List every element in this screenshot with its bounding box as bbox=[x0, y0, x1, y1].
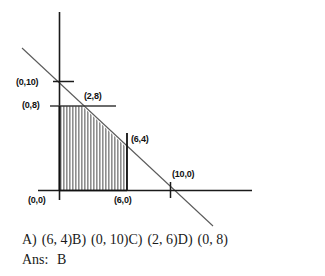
answer-option-b[interactable]: B) (0, 10) bbox=[72, 232, 128, 248]
answer-key-d: D) bbox=[178, 232, 193, 248]
coordinate-plane-svg bbox=[0, 0, 325, 228]
answer-option-c[interactable]: C) (2, 6) bbox=[128, 232, 177, 248]
answer-label: Ans: bbox=[22, 252, 48, 267]
answer-value: B bbox=[57, 252, 66, 267]
label-0-10: (0,10) bbox=[16, 78, 38, 87]
label-0-0: (0,0) bbox=[28, 196, 46, 205]
answer-value-b: (0, 10) bbox=[91, 232, 128, 248]
label-0-8: (0,8) bbox=[22, 101, 40, 110]
label-2-8: (2,8) bbox=[84, 92, 102, 101]
answer-options-row: A) (6, 4) B) (0, 10) C) (2, 6) D) (0, 8) bbox=[22, 232, 228, 248]
label-6-4: (6,4) bbox=[131, 135, 149, 144]
answer-value-a: (6, 4) bbox=[42, 232, 72, 248]
answer-line: Ans: B bbox=[22, 252, 66, 268]
answer-key-b: B) bbox=[72, 232, 86, 248]
shaded-feasible-region bbox=[59, 106, 127, 190]
graph-figure: (0,10) (0,8) (2,8) (6,4) (10,0) (0,0) (6… bbox=[0, 0, 325, 228]
answer-value-c: (2, 6) bbox=[147, 232, 177, 248]
answer-value-d: (0, 8) bbox=[198, 232, 228, 248]
answer-option-a[interactable]: A) (6, 4) bbox=[22, 232, 72, 248]
label-6-0: (6,0) bbox=[114, 196, 132, 205]
answer-key-a: A) bbox=[22, 232, 37, 248]
answer-section: A) (6, 4) B) (0, 10) C) (2, 6) D) (0, 8)… bbox=[0, 228, 325, 276]
label-10-0: (10,0) bbox=[172, 170, 194, 179]
answer-key-c: C) bbox=[128, 232, 142, 248]
answer-option-d[interactable]: D) (0, 8) bbox=[178, 232, 228, 248]
